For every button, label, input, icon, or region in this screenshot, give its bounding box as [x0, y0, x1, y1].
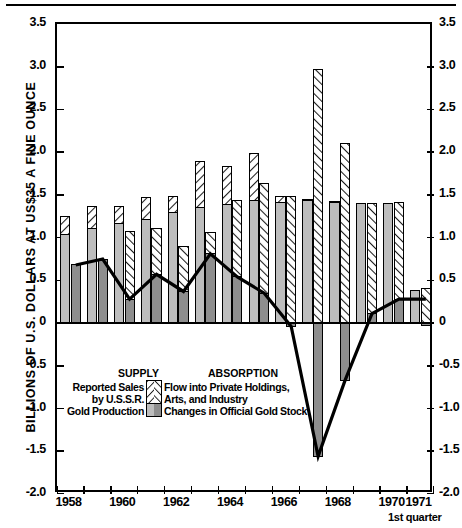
gold-supply-absorption-chart: BILLIONS OF U.S. DOLLARS AT US$35 A FINE…	[0, 0, 462, 528]
bar-gold-production	[303, 201, 312, 323]
bar-official-gold-stock	[98, 259, 107, 323]
y-tick-label: -1.5	[26, 443, 46, 456]
x-tick-label: 1964	[217, 496, 243, 509]
bar-gold-production	[357, 203, 366, 323]
y-tick-label: 3.5	[30, 16, 46, 29]
y-tick-label: -1.0	[439, 401, 459, 414]
y-tick-label: -0.5	[26, 358, 46, 371]
x-tick-label: 1968	[325, 496, 351, 509]
bar-private-flow	[394, 203, 403, 300]
y-axis-labels-right: 3.53.02.52.01.51.00.50-0.5-1.0-1.5-2.0	[436, 22, 462, 492]
bar-private-flow	[152, 228, 161, 274]
y-tick-label: 3.5	[439, 16, 455, 29]
bar-official-gold-stock	[206, 254, 215, 323]
bar-private-flow	[206, 233, 215, 254]
legend-label-private-flow: Flow into Private Holdings, Arts, and In…	[164, 382, 289, 405]
bar-gold-production	[87, 228, 96, 323]
bar-gold-production	[276, 203, 285, 323]
bar-private-flow	[125, 232, 134, 300]
bar-ussr-sales	[330, 202, 339, 203]
y-tick-label: 0	[439, 315, 446, 328]
bar-official-gold-stock	[125, 299, 134, 323]
y-tick-label: 0.5	[30, 272, 46, 285]
chart-canvas	[57, 24, 434, 494]
y-tick-label: 1.0	[439, 230, 455, 243]
chart-legend: SUPPLY ABSORPTION Reported Sales by U.S.…	[60, 368, 360, 420]
x-axis-labels: 19581960196219641966196819701971	[55, 496, 432, 512]
y-tick-label: 1.5	[30, 187, 46, 200]
bar-official-gold-stock	[233, 277, 242, 323]
bar-private-flow	[367, 203, 376, 313]
bar-private-flow	[260, 184, 269, 293]
y-tick-label: -1.5	[439, 443, 459, 456]
top-rule-divider	[6, 4, 456, 6]
y-tick-label: 1.5	[439, 187, 455, 200]
bar-official-gold-stock	[179, 291, 188, 323]
legend-absorption-heading: ABSORPTION	[208, 368, 278, 380]
bar-private-flow	[340, 144, 349, 323]
legend-supply-heading: SUPPLY	[118, 368, 159, 380]
y-tick-label: 0	[39, 315, 46, 328]
x-tick-label: 1970	[378, 496, 404, 509]
legend-ussr-line1: Reported Sales	[72, 381, 144, 393]
legend-label-gold-production: Gold Production	[2, 406, 144, 418]
y-tick-label: 0.5	[439, 272, 455, 285]
bar-ussr-sales	[195, 162, 204, 208]
y-tick-label: 3.0	[439, 59, 455, 72]
bar-ussr-sales	[222, 167, 231, 205]
legend-ussr-line2: by U.S.S.R.	[92, 393, 144, 405]
bar-gold-production	[330, 203, 339, 323]
bar-gold-production	[249, 200, 258, 323]
bar-gold-production	[114, 223, 123, 323]
x-tick-label: 1958	[55, 496, 81, 509]
bar-ussr-sales	[168, 197, 177, 213]
quarter-note: 1st quarter	[388, 511, 442, 523]
x-tick-label: 1960	[109, 496, 135, 509]
bar-ussr-sales	[61, 216, 70, 234]
bar-official-gold-stock	[71, 265, 80, 323]
y-tick-label: 1.0	[30, 230, 46, 243]
bar-ussr-sales	[303, 199, 312, 201]
y-tick-label: 2.0	[439, 144, 455, 157]
y-axis-labels-left: 3.53.02.52.01.51.00.50-0.5-1.0-1.5-2.0	[2, 22, 50, 492]
y-tick-label: 2.5	[30, 101, 46, 114]
y-tick-label: -2.0	[26, 486, 46, 499]
legend-swatch-solid	[146, 403, 162, 417]
legend-label-official-stock: Changes in Official Gold Stock	[164, 406, 307, 418]
y-tick-label: 3.0	[30, 59, 46, 72]
bar-ussr-sales	[276, 197, 285, 203]
bar-gold-production	[411, 291, 420, 323]
bar-ussr-sales	[141, 197, 150, 219]
legend-flow-line1: Flow into Private Holdings,	[164, 381, 289, 393]
legend-swatch-hatched	[146, 380, 162, 404]
bar-private-flow	[287, 197, 296, 323]
plot-area	[55, 22, 432, 492]
y-tick-label: 2.0	[30, 144, 46, 157]
bar-private-flow	[233, 200, 242, 277]
legend-label-ussr-sales: Reported Sales by U.S.S.R.	[2, 382, 144, 405]
x-tick-label: 1962	[163, 496, 189, 509]
bar-gold-production	[168, 213, 177, 323]
y-tick-label: -0.5	[439, 358, 459, 371]
y-tick-label: -2.0	[439, 486, 459, 499]
bar-ussr-sales	[87, 206, 96, 228]
x-tick-label: 1971	[405, 496, 431, 509]
bar-private-flow	[314, 69, 323, 323]
x-tick-label: 1966	[271, 496, 297, 509]
bar-official-gold-stock	[152, 274, 161, 323]
bar-official-gold-stock	[394, 299, 403, 323]
y-tick-label: 2.5	[439, 101, 455, 114]
bar-ussr-sales	[249, 154, 258, 200]
bar-gold-production	[61, 234, 70, 323]
bar-ussr-sales	[114, 207, 123, 223]
bar-gold-production	[141, 220, 150, 323]
bar-private-flow	[421, 289, 430, 323]
legend-flow-line2: Arts, and Industry	[164, 393, 248, 405]
